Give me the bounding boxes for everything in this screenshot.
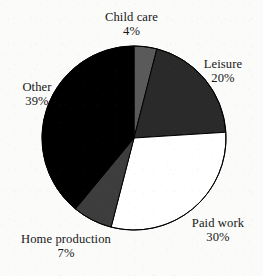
pie-label-home-production-name: Home production (3, 232, 129, 246)
pie-label-home-production-value: 7% (3, 246, 129, 260)
pie-label-leisure: Leisure 20% (186, 57, 260, 85)
pie-label-leisure-value: 20% (186, 71, 260, 85)
pie-label-leisure-name: Leisure (186, 57, 260, 71)
pie-label-home-production: Home production 7% (3, 232, 129, 260)
pie-label-child-care: Child care 4% (0, 10, 263, 38)
pie-label-other: Other 39% (6, 80, 68, 108)
pie-label-other-value: 39% (6, 94, 68, 108)
pie-label-other-name: Other (6, 80, 68, 94)
pie-label-paid-work-name: Paid work (176, 216, 260, 230)
pie-chart: Child care 4% Leisure 20% Paid work 30% … (0, 0, 263, 276)
pie-label-paid-work-value: 30% (176, 230, 260, 244)
pie-label-child-care-name: Child care (0, 10, 263, 24)
pie-label-child-care-value: 4% (0, 24, 263, 38)
pie-label-paid-work: Paid work 30% (176, 216, 260, 244)
